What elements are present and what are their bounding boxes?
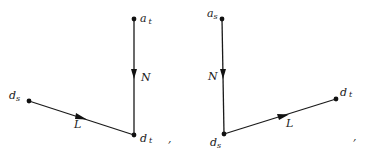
diagram-canvas: at dt ds N L , as ds dt N L , bbox=[0, 0, 369, 150]
edge-label-L: L bbox=[285, 117, 293, 130]
punctuation-comma: , bbox=[353, 130, 357, 143]
label-d-s: ds bbox=[9, 89, 20, 103]
right-diagram: as ds dt N L , bbox=[207, 7, 357, 150]
punctuation-comma: , bbox=[168, 132, 172, 145]
node-d-t bbox=[132, 133, 137, 138]
node-a-s bbox=[220, 17, 225, 22]
node-d-s bbox=[222, 132, 227, 137]
arrow-down-icon bbox=[131, 69, 137, 79]
left-diagram: at dt ds N L , bbox=[9, 12, 172, 145]
label-d-s: ds bbox=[210, 136, 221, 150]
edge-label-N: N bbox=[140, 71, 151, 84]
label-d-t: dt bbox=[140, 132, 153, 145]
node-d-t bbox=[334, 97, 339, 102]
arrow-down-icon bbox=[220, 69, 226, 79]
label-a-s: as bbox=[207, 7, 218, 21]
node-a-t bbox=[132, 17, 137, 22]
edge-label-N: N bbox=[207, 70, 218, 83]
node-d-s bbox=[27, 99, 32, 104]
label-a-t: at bbox=[140, 12, 153, 26]
label-d-t: dt bbox=[340, 86, 353, 99]
edge-label-L: L bbox=[73, 118, 81, 131]
